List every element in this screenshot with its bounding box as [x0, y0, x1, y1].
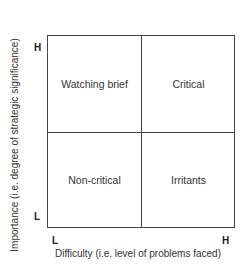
quadrant-critical: Critical — [142, 36, 235, 132]
x-axis-high-tick: H — [222, 235, 229, 246]
y-axis-high-tick: H — [34, 42, 41, 53]
matrix-grid: Watching brief Critical Non-critical Irr… — [47, 35, 235, 228]
x-axis-label: Difficulty (i.e. level of problems faced… — [55, 248, 221, 259]
quadrant-irritants: Irritants — [142, 133, 235, 228]
x-axis-low-tick: L — [52, 235, 58, 246]
quadrant-non-critical: Non-critical — [48, 133, 141, 228]
quadrant-watching-brief: Watching brief — [48, 36, 141, 132]
y-axis-low-tick: L — [34, 211, 40, 222]
y-axis-label: Importance (i.e. degree of strategic sig… — [9, 38, 20, 251]
